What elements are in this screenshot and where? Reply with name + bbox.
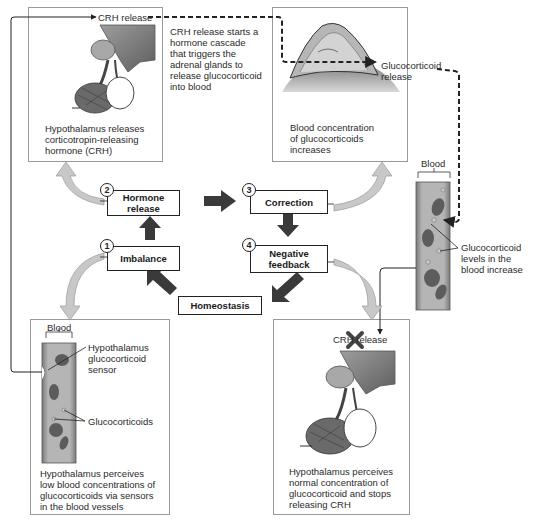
sensor-label: Hypothalamus glucocorticoid sensor [88,342,149,375]
arrow-correction-to-feedback [277,212,299,237]
glucocorticoid-levels-callout: Glucocorticoid levels in the blood incre… [461,242,523,275]
right-blood-label: Blood [421,158,445,169]
feedback-line-right [380,268,416,334]
bottom-right-caption: Hypothalamus perceives normal concentrat… [289,466,393,510]
cascade-note: CRH release starts a hormone cascade tha… [170,26,262,92]
stage-number-2: 2 [100,183,114,197]
stage-negative-feedback: Negative feedback [250,245,328,273]
pituitary-illustration-bottom [300,351,395,454]
stage-number-4: 4 [242,238,256,252]
top-left-caption: Hypothalamus releases corticotropin-rele… [45,123,144,156]
arrow-homeostasis-to-imbalance [147,267,177,295]
stage-homeostasis: Homeostasis [178,296,262,315]
arrow-hormone-to-correction [204,190,236,212]
crh-release-blocked-label: CRH release [333,334,387,345]
top-right-caption: Blood concentration of glucocorticoids i… [290,122,374,155]
glucocorticoid-release-label: Glucocorticoid release [381,60,441,82]
blood-vessel-left [42,328,86,463]
arrow-imbalance-to-hormone [139,216,161,240]
blood-vessel-right [416,168,458,310]
arrow-feedback-to-homeostasis [272,272,304,302]
stage-number-1: 1 [100,239,114,253]
stage-number-3: 3 [242,183,256,197]
pituitary-illustration-top [72,25,155,113]
stage-correction: Correction [250,190,328,214]
crh-release-label: CRH release [98,12,152,23]
glucocorticoids-label: Glucocorticoids [88,416,153,427]
left-blood-label: Blood [47,322,71,333]
stage-hormone-release: Hormone release [107,190,180,216]
bottom-left-caption: Hypothalamus perceives low blood concent… [40,468,155,512]
stage-imbalance: Imbalance [107,246,180,271]
